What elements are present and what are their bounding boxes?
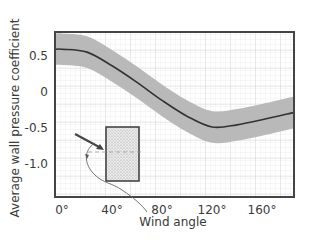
- x-tick-label: 0°: [55, 203, 69, 217]
- x-axis-label: Wind angle: [139, 215, 206, 229]
- building-rectangle: [106, 127, 139, 181]
- y-tick-label: 0.5: [29, 49, 48, 63]
- x-tick-label: 160°: [248, 203, 277, 217]
- x-tick-label: 40°: [101, 203, 122, 217]
- chart: 0.50-0.5-1.0 0°40°80°120°160° Average wa…: [0, 0, 309, 240]
- y-ticks: 0.50-0.5-1.0: [25, 49, 48, 171]
- y-tick-label: -0.5: [25, 121, 48, 135]
- y-axis-label: Average wall pressure coefficient: [8, 18, 22, 217]
- y-tick-label: -1.0: [25, 157, 48, 171]
- y-tick-label: 0: [40, 85, 48, 99]
